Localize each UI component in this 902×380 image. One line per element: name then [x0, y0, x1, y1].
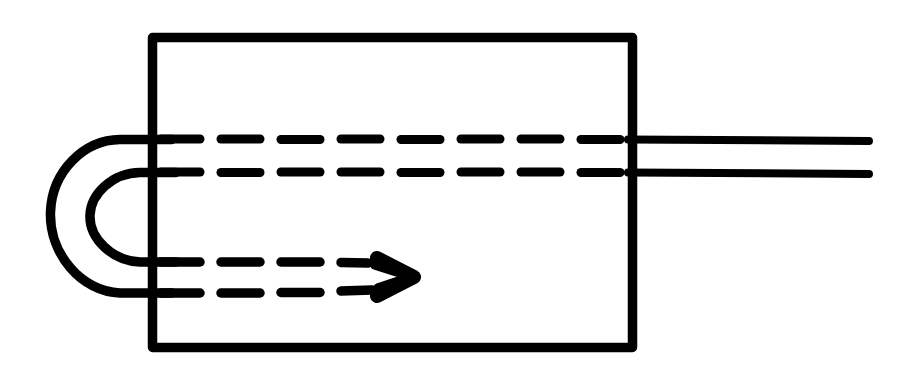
figure-canvas: Hand-drawn schematic: rectangular block …	[0, 0, 902, 380]
right-lead-line-upper	[628, 140, 869, 142]
paper-background	[0, 0, 902, 380]
right-lead-line-lower	[628, 173, 869, 175]
schematic-drawing	[0, 0, 902, 380]
